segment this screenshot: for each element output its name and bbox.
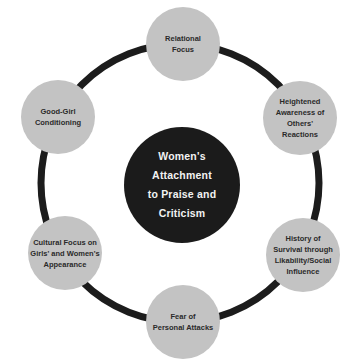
node-label: Fear of Personal Attacks [153, 311, 214, 333]
node-label: Good-Girl Conditioning [35, 106, 81, 128]
node-fear-of-personal-attacks: Fear of Personal Attacks [146, 285, 220, 359]
node-heightened-awareness: Heightened Awareness of Others' Reaction… [263, 81, 337, 155]
node-label: Cultural Focus on Girls' and Women's App… [30, 237, 99, 270]
node-label: History of Survival through Likability/S… [273, 233, 333, 277]
node-label: Heightened Awareness of Others' Reaction… [276, 96, 325, 140]
center-concept-label: Women's Attachment to Praise and Critici… [148, 147, 217, 223]
node-label: Relational Focus [165, 33, 201, 55]
node-relational-focus: Relational Focus [146, 7, 220, 81]
center-concept: Women's Attachment to Praise and Critici… [124, 127, 240, 243]
node-good-girl-conditioning: Good-Girl Conditioning [21, 80, 95, 154]
node-history-of-survival: History of Survival through Likability/S… [266, 218, 340, 292]
node-cultural-focus: Cultural Focus on Girls' and Women's App… [28, 216, 102, 290]
